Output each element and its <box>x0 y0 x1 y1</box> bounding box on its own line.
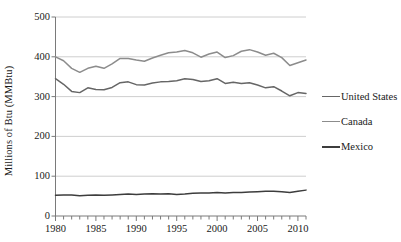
legend-item-label: United States <box>340 91 397 103</box>
legend-item-label: Mexico <box>340 141 373 153</box>
legend-item[interactable]: Mexico <box>322 134 401 159</box>
chart-legend: United StatesCanadaMexico <box>322 84 401 159</box>
line-chart: Millions of Btu (MMBtu) 0100200300400500… <box>0 0 401 242</box>
series-line-canada <box>56 50 307 73</box>
legend-line-swatch <box>322 121 340 122</box>
legend-line-swatch <box>322 96 340 97</box>
series-line-united-states <box>56 79 307 96</box>
legend-line-swatch <box>322 146 340 148</box>
series-line-mexico <box>56 190 307 196</box>
legend-item[interactable]: United States <box>322 84 401 109</box>
legend-item-label: Canada <box>340 116 373 128</box>
legend-item[interactable]: Canada <box>322 109 401 134</box>
